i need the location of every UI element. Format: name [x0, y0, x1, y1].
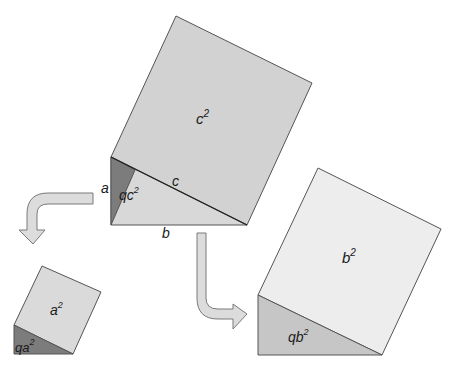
side-b-label: b	[162, 225, 170, 241]
side-c-label: c	[172, 173, 179, 189]
side-a-label: a	[101, 180, 109, 196]
arrow-to-a-square-icon	[19, 193, 93, 244]
arrow-to-b-square-icon	[197, 233, 247, 329]
pythagorean-similar-triangles-diagram: c2 a c b qc2 a2 qa2 b2 qb2	[0, 0, 456, 370]
diagram-canvas: c2 a c b qc2 a2 qa2 b2 qb2	[0, 0, 456, 370]
